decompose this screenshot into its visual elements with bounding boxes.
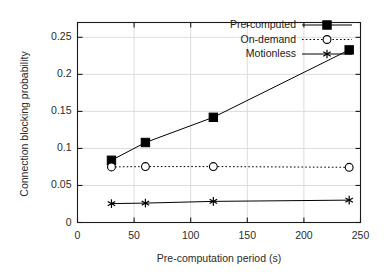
- x-axis-label: Pre-computation period (s): [77, 252, 361, 264]
- y-tick-label: 0.25: [34, 30, 72, 42]
- marker-filled-square: [345, 46, 353, 54]
- x-tick-label: 0: [58, 229, 98, 241]
- x-tick-label: 100: [171, 229, 211, 241]
- x-tick-label: 250: [341, 229, 381, 241]
- y-tick-label: 0.05: [34, 178, 72, 190]
- legend-label-motionless: Motionless: [176, 47, 296, 59]
- marker-filled-square: [141, 138, 149, 146]
- x-tick-label: 50: [114, 229, 154, 241]
- y-tick-label: 0.1: [34, 141, 72, 153]
- x-tick-label: 200: [284, 229, 324, 241]
- x-tick-label: 150: [227, 229, 267, 241]
- legend-label-on-demand: On-demand: [176, 33, 296, 45]
- y-axis-label: Connection blocking probability: [18, 34, 30, 214]
- marker-open-circle: [345, 163, 353, 171]
- marker-open-circle: [108, 163, 116, 171]
- marker-open-circle: [142, 163, 150, 171]
- legend-label-pre-computed: Pre-computed: [176, 18, 296, 30]
- marker-filled-square: [323, 21, 331, 29]
- y-tick-label: 0: [34, 216, 72, 228]
- marker-filled-square: [209, 113, 217, 121]
- marker-open-circle: [209, 163, 217, 171]
- chart-figure: Connection blocking probability Pre-comp…: [0, 0, 384, 274]
- y-tick-label: 0.2: [34, 67, 72, 79]
- marker-open-circle: [323, 36, 331, 44]
- y-tick-label: 0.15: [34, 104, 72, 116]
